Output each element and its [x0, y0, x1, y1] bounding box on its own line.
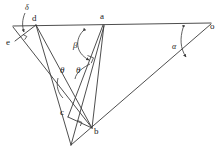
vertex-label-e: e	[6, 38, 10, 47]
theta1-arc	[57, 78, 63, 98]
segment-c-b	[68, 117, 92, 128]
vertex-label-b: b	[94, 127, 99, 136]
geometry-diagram: d a o e c b δ β α θ θ	[0, 0, 221, 150]
alpha-arc	[181, 28, 186, 57]
segment-o-p	[71, 24, 211, 145]
vertex-label-a: a	[100, 12, 104, 21]
segment-a-b	[92, 25, 104, 128]
angle-label-theta-2: θ	[76, 66, 80, 75]
segment-a-c	[68, 25, 103, 117]
angle-label-beta: β	[73, 41, 77, 50]
segment-d-p	[36, 25, 71, 145]
angle-label-delta: δ	[25, 4, 29, 12]
segment-top-baseline	[13, 23, 211, 26]
right-angle-mark-e	[23, 35, 27, 40]
beta-arc	[78, 31, 89, 60]
delta-arc	[23, 13, 25, 32]
angle-label-alpha: α	[172, 43, 176, 51]
vertex-label-o: o	[210, 22, 215, 31]
angle-label-theta-1: θ	[60, 66, 64, 75]
vertex-label-d: d	[32, 14, 37, 23]
vertex-label-c: c	[60, 108, 64, 117]
